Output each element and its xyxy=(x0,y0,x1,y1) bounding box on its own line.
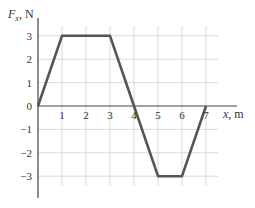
y-tick-label: 1 xyxy=(27,77,33,89)
y-tick-labels: 3210−1−2−3 xyxy=(20,30,32,182)
y-tick-label: −2 xyxy=(20,147,32,159)
y-tick-label: −3 xyxy=(20,170,32,182)
axes xyxy=(38,18,237,198)
force-vs-position-chart: 1234567 3210−1−2−3 Fx, N x, m xyxy=(0,0,255,208)
x-tick-label: 1 xyxy=(59,109,65,121)
x-axis-label: x, m xyxy=(222,107,244,121)
x-tick-label: 7 xyxy=(203,109,209,121)
x-tick-label: 2 xyxy=(83,109,89,121)
y-tick-label: −1 xyxy=(20,123,32,135)
x-tick-labels: 1234567 xyxy=(59,109,209,121)
x-tick-label: 4 xyxy=(131,109,137,121)
y-axis-label: Fx, N xyxy=(7,7,34,23)
y-tick-label: 0 xyxy=(27,100,33,112)
x-tick-label: 6 xyxy=(179,109,185,121)
x-tick-label: 3 xyxy=(107,109,113,121)
x-tick-label: 5 xyxy=(155,109,161,121)
y-tick-label: 3 xyxy=(27,30,33,42)
y-tick-label: 2 xyxy=(27,53,33,65)
